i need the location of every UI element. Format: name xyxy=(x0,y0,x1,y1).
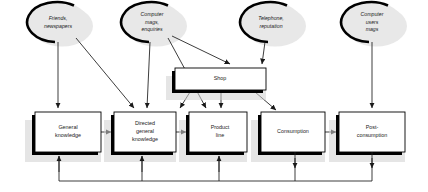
stage-node-directed-general-knowledge[interactable]: Directed general knowledge xyxy=(104,112,176,162)
source-nodes: Friends, newspapers Computer mags, enqui… xyxy=(27,2,407,47)
stage-label-line-0: General xyxy=(58,124,77,130)
source-label-line-2: enquiries xyxy=(141,26,162,32)
stage-label-line-1: line xyxy=(216,132,224,138)
connector-friends-to-directed-general-knowledge xyxy=(76,38,134,108)
stage-label-line-1: knowledge xyxy=(55,132,81,138)
source-label-line-0: Computer xyxy=(361,11,384,17)
stage-label-line-0: Product xyxy=(211,124,230,130)
stage-label-line-2: knowledge xyxy=(132,136,158,142)
source-label-line-0: Friends, xyxy=(49,15,68,21)
stage-label-line-0: Shop xyxy=(214,75,227,81)
stage-label-line-1: consumption xyxy=(357,132,388,138)
source-label-line-0: Computer xyxy=(141,11,164,17)
stage-node-product-line[interactable]: Product line xyxy=(179,112,247,162)
stage-label-line-0: Post- xyxy=(366,124,379,130)
diagram-canvas: Friends, newspapers Computer mags, enqui… xyxy=(0,0,428,192)
source-node-computer-users-mags[interactable]: Computer users mags xyxy=(341,2,407,47)
stage-node-consumption[interactable]: Consumption xyxy=(251,112,325,162)
stage-label-line-0: Directed xyxy=(135,120,155,126)
source-label-line-0: Telephone, xyxy=(258,15,283,21)
source-label-line-1: users xyxy=(366,19,379,25)
connector-computer-mags-to-shop xyxy=(172,36,230,64)
source-node-friends[interactable]: Friends, newspapers xyxy=(27,2,93,47)
source-node-computer-mags[interactable]: Computer mags, enquiries xyxy=(121,2,187,47)
source-label-line-1: newspapers xyxy=(44,23,72,29)
stage-nodes: General knowledge Directed general knowl… xyxy=(25,68,405,162)
stage-label-line-0: Consumption xyxy=(277,128,309,134)
stage-label-line-1: general xyxy=(136,128,154,134)
source-label-line-1: reputation xyxy=(259,23,282,29)
connector-telephone-to-shop xyxy=(262,42,265,64)
stage-node-post-consumption[interactable]: Post- consumption xyxy=(329,112,405,162)
stage-node-shop[interactable]: Shop xyxy=(166,68,266,100)
flow-diagram: Friends, newspapers Computer mags, enqui… xyxy=(0,0,428,192)
source-label-line-1: mags, xyxy=(145,19,159,25)
stage-node-general-knowledge[interactable]: General knowledge xyxy=(25,112,101,162)
source-label-line-2: mags xyxy=(366,26,379,32)
connector-computer-mags-to-directed-general-knowledge xyxy=(147,42,150,108)
source-node-telephone[interactable]: Telephone, reputation xyxy=(240,2,306,47)
